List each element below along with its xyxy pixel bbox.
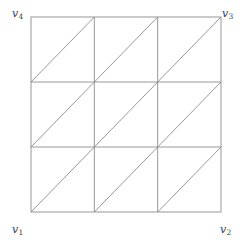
cell-diagonal-r3c1: [31, 147, 94, 212]
vertex-label-v3-subscript: 3: [229, 12, 234, 21]
cell-diagonal-r2c2: [94, 82, 157, 147]
vertex-label-v2-base: v: [220, 223, 226, 236]
cell-diagonal-r1c1: [31, 17, 94, 82]
vertex-label-v3: v3: [222, 8, 233, 19]
cell-diagonal-r3c3: [158, 147, 221, 212]
vertex-label-v4-subscript: 4: [19, 12, 24, 21]
vertex-label-v2: v2: [220, 224, 231, 235]
vertex-label-v1-base: v: [12, 223, 18, 236]
vertex-label-v3-base: v: [222, 7, 228, 20]
vertex-label-v2-subscript: 2: [227, 228, 232, 237]
vertex-label-v1: v1: [12, 224, 23, 235]
cell-diagonal-r1c2: [94, 17, 157, 82]
cell-diagonal-r2c3: [158, 82, 221, 147]
figure-canvas: v4 v3 v1 v2: [0, 0, 247, 243]
vertex-label-v1-subscript: 1: [19, 228, 24, 237]
triangulated-square-mesh: [0, 0, 247, 243]
cell-diagonal-r2c1: [31, 82, 94, 147]
vertex-label-v4: v4: [12, 8, 23, 19]
vertex-label-v4-base: v: [12, 7, 18, 20]
cell-diagonal-r1c3: [158, 17, 221, 82]
mesh-lines: [31, 17, 221, 212]
cell-diagonal-r3c2: [94, 147, 157, 212]
